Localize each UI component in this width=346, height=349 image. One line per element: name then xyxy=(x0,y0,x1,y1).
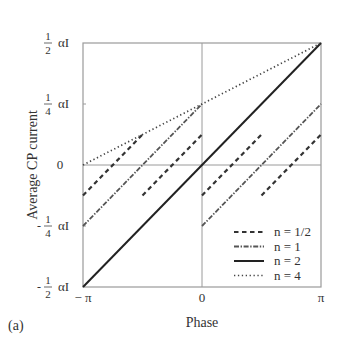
x-tick-label: − π xyxy=(74,290,92,305)
legend-label: n = 4 xyxy=(274,268,301,283)
y-tick-unit: αI xyxy=(58,35,69,50)
y-tick-unit: αI xyxy=(58,218,69,233)
y-tick-numerator: 1 xyxy=(45,274,51,286)
panel-label: (a) xyxy=(8,318,24,334)
y-axis-ticks: 12αI14αI0-14αI-12αI xyxy=(37,30,69,300)
cp-current-chart: 12αI14αI0-14αI-12αI − π0π n = 1/2n = 1n … xyxy=(0,0,346,349)
x-tick-label: π xyxy=(318,290,325,305)
y-tick-unit: αI xyxy=(58,279,69,294)
y-tick-numerator: 1 xyxy=(45,91,51,103)
legend-item: n = 1 xyxy=(234,239,301,254)
x-axis-ticks: − π0π xyxy=(74,290,324,305)
x-axis-label: Phase xyxy=(186,315,219,330)
y-tick-label: -14αI xyxy=(37,213,69,239)
y-tick-denominator: 4 xyxy=(45,227,51,239)
y-axis-label: Average CP current xyxy=(25,110,40,220)
legend-label: n = 1 xyxy=(274,239,301,254)
y-tick-text: 0 xyxy=(57,157,64,172)
legend-item: n = 2 xyxy=(234,253,301,268)
y-tick-sign: - xyxy=(37,219,41,233)
y-tick-label: 12αI xyxy=(44,30,69,56)
legend-item: n = 1/2 xyxy=(234,224,311,239)
y-tick-numerator: 1 xyxy=(45,213,51,225)
legend-label: n = 2 xyxy=(274,253,301,268)
y-tick-numerator: 1 xyxy=(45,30,51,42)
legend-item: n = 4 xyxy=(234,268,301,283)
y-tick-denominator: 2 xyxy=(45,44,51,56)
legend: n = 1/2n = 1n = 2n = 4 xyxy=(234,224,311,283)
y-tick-label: -12αI xyxy=(37,274,69,300)
y-tick-label: 0 xyxy=(57,157,64,172)
y-tick-label: 14αI xyxy=(44,91,69,117)
y-tick-denominator: 2 xyxy=(45,288,51,300)
y-tick-unit: αI xyxy=(58,96,69,111)
y-tick-sign: - xyxy=(37,280,41,294)
x-tick-label: 0 xyxy=(199,290,206,305)
legend-label: n = 1/2 xyxy=(274,224,311,239)
y-tick-denominator: 4 xyxy=(45,105,51,117)
